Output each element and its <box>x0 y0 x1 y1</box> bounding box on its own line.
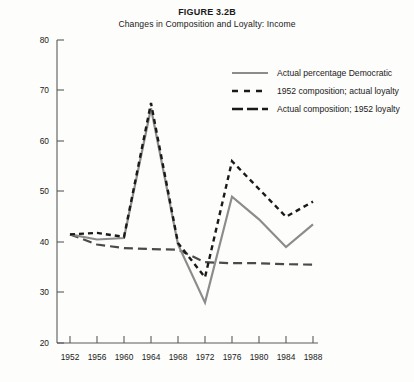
y-axis-tick-labels: 80 70 60 50 40 30 20 <box>40 35 50 348</box>
legend: Actual percentage Democratic 1952 compos… <box>232 68 400 114</box>
y-axis-ticks <box>57 40 64 343</box>
x-tick-label-1952: 1952 <box>61 352 80 362</box>
series-lines <box>70 103 313 303</box>
x-tick-label-1972: 1972 <box>196 352 215 362</box>
y-tick-label-50: 50 <box>40 186 50 196</box>
y-tick-label-70: 70 <box>40 85 50 95</box>
y-tick-label-80: 80 <box>40 35 50 45</box>
x-tick-label-1988: 1988 <box>304 352 323 362</box>
y-tick-label-40: 40 <box>40 237 50 247</box>
x-tick-label-1964: 1964 <box>142 352 161 362</box>
series-line-1952-composition-actual-loyalty <box>70 103 313 277</box>
x-tick-label-1956: 1956 <box>88 352 107 362</box>
x-tick-label-1976: 1976 <box>223 352 242 362</box>
y-tick-label-30: 30 <box>40 287 50 297</box>
legend-label-1952-composition-actual-loyalty: 1952 composition; actual loyalty <box>277 86 400 96</box>
legend-label-actual-percentage-democratic: Actual percentage Democratic <box>277 68 393 78</box>
line-chart: 80 70 60 50 40 30 20 1952 1956 1960 1964… <box>0 0 414 382</box>
x-tick-label-1984: 1984 <box>277 352 296 362</box>
x-tick-label-1968: 1968 <box>169 352 188 362</box>
figure-container: FIGURE 3.2B Changes in Composition and L… <box>0 0 414 382</box>
x-tick-label-1980: 1980 <box>250 352 269 362</box>
legend-label-actual-composition-1952-loyalty: Actual composition; 1952 loyalty <box>277 104 400 114</box>
x-axis-ticks <box>70 336 313 343</box>
y-tick-label-20: 20 <box>40 338 50 348</box>
x-tick-label-1960: 1960 <box>115 352 134 362</box>
y-tick-label-60: 60 <box>40 136 50 146</box>
x-axis-tick-labels: 1952 1956 1960 1964 1968 1972 1976 1980 … <box>61 352 323 362</box>
